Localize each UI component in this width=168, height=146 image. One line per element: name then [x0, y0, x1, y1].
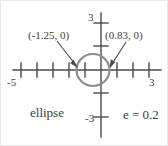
leader-arrow-left [57, 41, 77, 67]
left-vertex-label: (-1.25, 0) [28, 30, 69, 41]
leader-arrow-right [111, 42, 127, 67]
x-axis-max-label: 3 [149, 77, 155, 88]
eccentricity-label: e = 0.2 [123, 108, 159, 121]
curve-name-label: ellipse [30, 106, 64, 119]
arrow-head [71, 61, 76, 67]
y-axis-max-label: 3 [88, 12, 94, 23]
coordinate-plot [1, 1, 168, 146]
arrow-shaft [112, 42, 126, 64]
x-axis [13, 63, 161, 77]
right-vertex-label: (0.83, 0) [105, 30, 143, 41]
y-axis-min-label: -3 [85, 113, 94, 124]
x-axis-min-label: -5 [7, 77, 16, 88]
ellipse-figure: (-1.25, 0) (0.83, 0) -5 3 3 -3 ellipse e… [0, 0, 168, 146]
arrow-shaft [57, 41, 75, 64]
